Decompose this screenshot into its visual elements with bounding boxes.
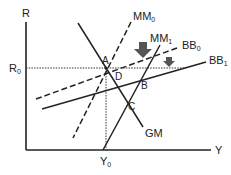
point-c-label: C [128, 101, 135, 112]
r0-label: R0 [9, 62, 21, 75]
bb-shift-arrow-icon [163, 57, 175, 67]
point-b-label: B [141, 80, 148, 91]
mm-shift-arrow-icon [134, 42, 152, 58]
y0-label: Y0 [100, 155, 111, 168]
gm-label: GM [145, 127, 163, 139]
x-axis-label: Y [215, 144, 223, 156]
mm0-curve [73, 22, 131, 138]
macro-diagram: R Y R0 Y0 [0, 0, 231, 175]
y-axis-label: R [22, 7, 30, 19]
mm1-label: MM1 [150, 32, 172, 45]
bb0-label: BB0 [182, 39, 201, 52]
point-a-label: A [102, 55, 109, 66]
bb1-label: BB1 [209, 54, 228, 67]
point-d-label: D [115, 71, 122, 82]
bb1-curve [42, 62, 206, 109]
mm0-label: MM0 [133, 10, 155, 23]
point-a-marker [104, 66, 107, 69]
